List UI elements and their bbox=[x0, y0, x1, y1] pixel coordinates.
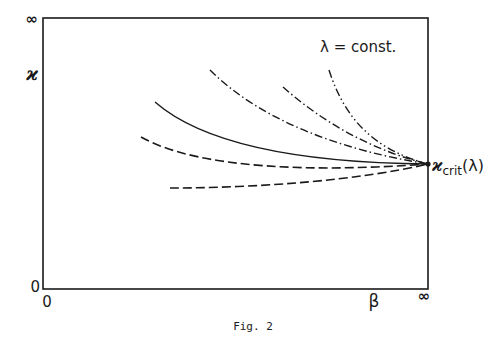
kappa-crit-label: ϰcrit(λ) bbox=[431, 156, 484, 178]
y-axis-bottom-tick: 0 bbox=[30, 278, 40, 296]
y-axis-label: ϰ bbox=[25, 63, 39, 84]
x-axis-right-tick: ∞ bbox=[418, 287, 431, 305]
figure-caption: Fig. 2 bbox=[233, 320, 273, 333]
curve-dash-dot-dot bbox=[329, 70, 428, 164]
x-axis-label: β bbox=[369, 291, 380, 311]
curves bbox=[141, 70, 428, 188]
kappa-crit-subscript: crit bbox=[442, 164, 462, 178]
curve-dash-dot-middle bbox=[283, 87, 428, 164]
lambda-constant-annotation: λ = const. bbox=[320, 38, 396, 56]
x-axis-left-tick: 0 bbox=[42, 293, 52, 311]
curve-dash-dot-long bbox=[210, 70, 428, 164]
figure-canvas: ∞ ϰ 0 0 β ∞ λ = const. ϰcrit(λ) Fig. 2 bbox=[0, 0, 503, 340]
limit-point-marker bbox=[425, 161, 430, 166]
kappa-crit-argument: (λ) bbox=[462, 156, 484, 175]
plot-frame bbox=[43, 18, 428, 289]
y-axis-top-tick: ∞ bbox=[26, 10, 39, 28]
kappa-crit-symbol: ϰ bbox=[431, 156, 443, 175]
curve-solid bbox=[155, 102, 428, 164]
